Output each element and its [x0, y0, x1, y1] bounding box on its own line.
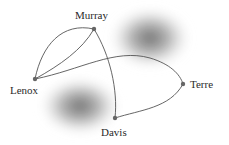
label-murray: Murray — [75, 10, 108, 21]
node-murray — [92, 27, 96, 31]
label-terre: Terre — [190, 79, 213, 90]
shaded-region-upper — [108, 6, 192, 70]
node-lenox — [33, 77, 37, 81]
node-davis — [113, 116, 117, 120]
label-davis: Davis — [101, 127, 127, 138]
node-terre — [181, 82, 185, 86]
edge-davis-terre — [115, 84, 183, 118]
label-lenox: Lenox — [10, 85, 38, 96]
network-diagram — [0, 0, 229, 145]
